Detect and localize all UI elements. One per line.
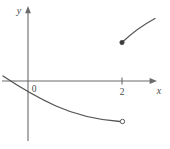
curve-left-branch xyxy=(3,76,120,122)
x-axis-label: x xyxy=(156,85,162,96)
x-axis-arrowhead xyxy=(150,78,157,84)
curve-right-branch xyxy=(123,19,156,43)
function-graph-figure: y x 0 2 xyxy=(0,0,170,149)
y-axis-label: y xyxy=(16,5,22,16)
graph-canvas: y x 0 2 xyxy=(0,0,170,149)
open-endpoint-circle xyxy=(120,119,124,123)
closed-endpoint-dot xyxy=(120,40,124,44)
y-axis-arrowhead xyxy=(25,6,31,13)
x-tick-label-2: 2 xyxy=(120,87,125,97)
origin-label: 0 xyxy=(32,84,37,94)
